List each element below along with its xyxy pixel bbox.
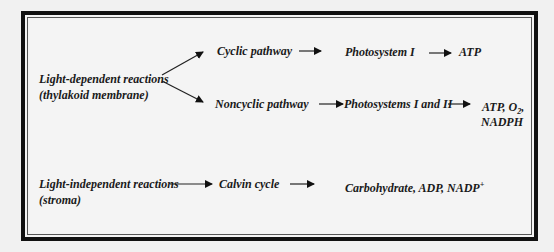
cyclic-product-atp: ATP <box>459 45 481 59</box>
photosystems-1-2-label: Photosystems I and II <box>344 97 452 111</box>
cyclic-pathway-label: Cyclic pathway <box>217 44 292 58</box>
light-dependent-location: (thylakoid membrane) <box>39 88 149 102</box>
photosystem-1-label: Photosystem I <box>345 45 415 59</box>
light-dependent-title: Light-dependent reactions <box>39 72 169 86</box>
calvin-cycle-label: Calvin cycle <box>219 177 279 191</box>
arrows-layer <box>0 0 554 252</box>
noncyclic-pathway-label: Noncyclic pathway <box>215 97 309 111</box>
light-independent-title: Light-independent reactions <box>39 177 179 191</box>
noncyclic-products-line2: NADPH <box>481 115 523 129</box>
light-independent-location: (stroma) <box>39 193 81 207</box>
calvin-products-label: Carbohydrate, ADP, NADP+ <box>345 178 484 195</box>
